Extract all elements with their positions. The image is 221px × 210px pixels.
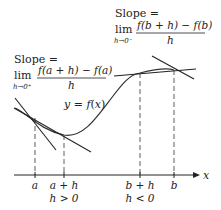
- left-denominator: h: [68, 79, 75, 91]
- derivative-diagram: x y = f(x) Slope = lim h→0⁺ f(a + h) − f…: [0, 0, 221, 210]
- tick-label-a-plus-h: a + h: [50, 179, 79, 191]
- right-denominator: h: [167, 34, 174, 46]
- right-numerator: f(b + h) − f(b): [136, 19, 212, 31]
- x-axis-arrow-icon: [193, 172, 200, 178]
- curve-label: y = f(x): [63, 98, 105, 111]
- tangent-line-b: [152, 56, 194, 79]
- left-lim: lim: [14, 69, 32, 82]
- condition-h-positive: h > 0: [50, 192, 79, 204]
- left-lim-subscript: h→0⁺: [13, 83, 32, 91]
- left-numerator: f(a + h) − f(a): [37, 64, 112, 76]
- right-lim-subscript: h→0⁻: [114, 37, 133, 45]
- right-lim: lim: [115, 23, 133, 36]
- tangent-line-a: [15, 98, 56, 150]
- diagram-svg: x y = f(x) Slope = lim h→0⁺ f(a + h) − f…: [0, 0, 221, 210]
- tick-label-a: a: [32, 179, 38, 191]
- tick-label-b: b: [171, 179, 178, 191]
- tick-label-b-plus-h: b + h: [126, 179, 155, 191]
- condition-h-negative: h < 0: [126, 192, 155, 204]
- x-axis-label: x: [203, 169, 210, 182]
